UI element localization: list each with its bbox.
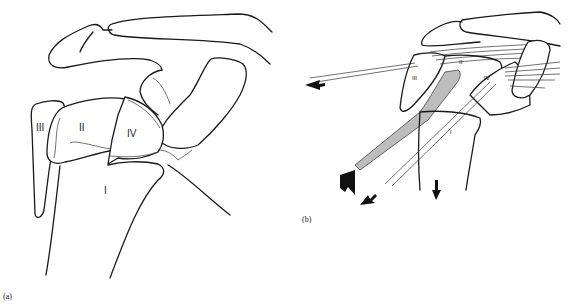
label-iii-a: III <box>36 122 44 133</box>
coracoid <box>159 58 246 148</box>
label-iv-a: IV <box>127 128 137 139</box>
fragment-i-shaft <box>46 162 230 278</box>
label-ii-a: II <box>79 122 85 133</box>
label-iv-b: IV <box>484 75 490 81</box>
arrow-left <box>305 80 325 90</box>
acromion-b <box>422 21 480 46</box>
label-i-b: I <box>450 129 452 135</box>
caption-b: (b) <box>302 215 312 224</box>
suture-line-left <box>310 63 418 82</box>
label-iii-b: III <box>412 75 417 81</box>
clavicle <box>108 14 272 64</box>
figure-canvas: III II IV I (a) I III <box>0 0 578 307</box>
panel-a: III II IV I (a) <box>3 14 272 301</box>
clavicle-b <box>460 12 560 46</box>
acromion <box>49 25 162 70</box>
caption-a: (a) <box>3 292 12 301</box>
big-arrow-impaction <box>340 170 355 195</box>
label-ii-b: II <box>459 59 463 65</box>
label-i-a: I <box>104 185 107 196</box>
panel-b: I III II IV (b) <box>302 12 560 224</box>
arrow-down <box>432 180 441 200</box>
arrow-down-left <box>360 194 377 205</box>
